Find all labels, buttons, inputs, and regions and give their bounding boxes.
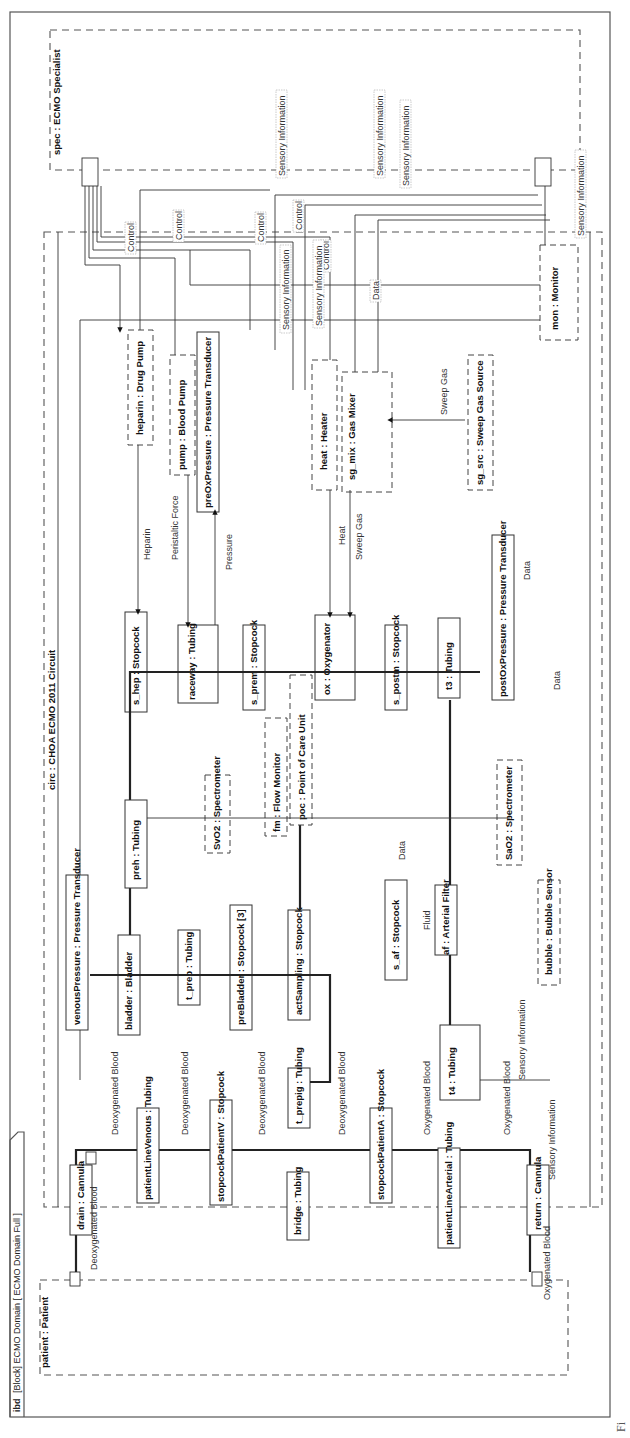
block-s_hep-label: s_hep : Stopcock [130, 626, 141, 705]
flow-label-control: Control [126, 223, 136, 252]
flow-label-sweep: Sweep Gas [439, 368, 449, 415]
flow-label-control: Control [256, 213, 266, 242]
block-patientLineVenous[interactable]: patientLineVenous : Tubing [137, 1076, 159, 1203]
block-actSampling[interactable]: actSampling : Stopcock [288, 907, 310, 1020]
block-poc[interactable]: poc : Point of Care Unit [290, 675, 312, 825]
block-postOxPressure[interactable]: postOxPressure : Pressure Transducer [492, 520, 514, 700]
block-preOxPressure[interactable]: preOxPressure : Pressure Transducer [197, 332, 219, 625]
block-sg_mix[interactable]: sg_mix : Gas Mixer [342, 372, 392, 615]
block-t3-label: t3 : Tubing [443, 642, 454, 690]
block-mon-label: mon : Monitor [549, 266, 560, 330]
block-SvO2[interactable]: SvO2 : Spectrometer [205, 756, 230, 853]
block-heparin-label: heparin : Drug Pump [134, 341, 145, 435]
flow-label-oxy: Oxygenated Blood [422, 1061, 432, 1135]
block-poc-label: poc : Point of Care Unit [296, 714, 307, 820]
block-preh[interactable]: preh : Tubing [125, 800, 147, 888]
block-t_preb[interactable]: t_preb : Tubing [178, 930, 200, 1005]
part-circ-label: circ : CHOA ECMO 2011 Circuit [46, 649, 57, 790]
block-venousPressure-label: venousPressure : Pressure Transducer [71, 848, 82, 1025]
flow-label-sensory: Sensory Information [401, 105, 411, 186]
block-af-label: af : Arterial Filter [440, 879, 451, 955]
block-bladder[interactable]: bladder : Bladder [118, 935, 140, 1035]
block-stopcockPatientV[interactable]: stopcockPatientV : Stopcock [210, 1070, 232, 1205]
block-stopcockPatientA[interactable]: stopcockPatientA : Stopcock [370, 1068, 392, 1203]
flow-label-sensory: Sensory Information [517, 999, 527, 1080]
block-heat-label: heat : Heater [318, 412, 329, 470]
svg-text:ibd [Block] ECMO Domain: ibd [Block] ECMO Domain [ ECMO Domain Fu… [12, 1213, 22, 1412]
block-pump[interactable]: pump : Blood Pump [170, 355, 195, 625]
part-spec-label: spec : ECMO Specialist [51, 49, 62, 155]
block-s_af-label: s_af : Stopcock [390, 899, 401, 970]
block-t4-label: t4 : Tubing [446, 1047, 457, 1095]
block-heat[interactable]: heat : Heater [312, 360, 337, 615]
flow-label-sensory: Sensory Information [314, 245, 324, 326]
block-raceway[interactable]: raceway : Tubing [178, 623, 218, 703]
block-sg_mix-label: sg_mix : Gas Mixer [346, 393, 357, 480]
block-stopcockPatientV-label: stopcockPatientV : Stopcock [215, 1070, 226, 1202]
block-t4[interactable]: t4 : Tubing [440, 1025, 550, 1100]
block-patientLineArterial[interactable]: patientLineArterial : Tubing [438, 1121, 460, 1248]
part-spec[interactable]: spec : ECMO Specialist [50, 30, 580, 186]
block-pump-label: pump : Blood Pump [176, 380, 187, 470]
flow-label-peristaltic: Peristaltic Force [170, 495, 180, 560]
block-SaO2[interactable]: SaO2 : Spectrometer [497, 760, 522, 865]
part-patient[interactable]: patient : Patient [39, 1272, 568, 1375]
flow-label-data: Data [552, 671, 562, 690]
block-s_af[interactable]: s_af : Stopcock [385, 880, 407, 980]
flow-label-deoxy: Deoxygenated Blood [337, 1051, 347, 1135]
frame-tab-kind: ibd [12, 1399, 22, 1413]
block-drain-label: drain : Cannula [75, 1160, 86, 1230]
block-raceway-label: raceway : Tubing [186, 623, 197, 700]
block-bubble-label: bubble : Bubble Sensor [543, 868, 554, 975]
block-SvO2-label: SvO2 : Spectrometer [211, 756, 222, 850]
block-preOxPressure-label: preOxPressure : Pressure Transducer [202, 337, 213, 508]
block-return[interactable]: return : Cannula [527, 1156, 549, 1235]
flow-label-heparin: Heparin [142, 528, 152, 560]
flow-label-data: Data [522, 561, 532, 580]
block-preh-label: preh : Tubing [130, 820, 141, 880]
flow-label-control: Control [174, 211, 184, 240]
block-sg_src-label: sg_src : Sweep Gas Source [474, 360, 485, 485]
block-bridge-label: bridge : Tubing [292, 1166, 303, 1235]
drain-port[interactable] [86, 1152, 96, 1164]
block-SaO2-label: SaO2 : Spectrometer [503, 766, 514, 860]
block-af[interactable]: af : Arterial Filter [435, 700, 457, 1025]
frame-tab-rest: [Block] ECMO Domain [ ECMO Domain Full ] [12, 1213, 22, 1393]
block-s_prem-label: s_prem : Stopcock [248, 619, 259, 705]
flow-label-pressure: Pressure [224, 534, 234, 570]
flow-label-sensory: Sensory Information [375, 95, 385, 176]
block-ox[interactable]: ox : Oxygenator [315, 615, 355, 700]
block-actSampling-label: actSampling : Stopcock [293, 907, 304, 1015]
spec-sensory-port[interactable] [535, 158, 551, 186]
block-bridge[interactable]: bridge : Tubing [287, 1166, 309, 1240]
block-mon[interactable]: mon : Monitor [540, 245, 578, 340]
block-s_prem[interactable]: s_prem : Stopcock [243, 619, 265, 710]
flow-label-sensory: Sensory Information [277, 95, 287, 176]
flow-label-deoxy: Deoxygenated Blood [257, 1051, 267, 1135]
block-t3[interactable]: t3 : Tubing [438, 618, 460, 698]
block-s_hep[interactable]: s_hep : Stopcock [125, 612, 147, 712]
block-preBladder[interactable]: preBladder : Stopcock [3] [230, 905, 252, 1030]
spec-control-port[interactable] [82, 158, 98, 186]
flow-label-oxy: Oxygenated Blood [542, 1226, 552, 1300]
flow-label-sensory: Sensory Information [547, 1099, 557, 1180]
flow-label-control: Control [294, 201, 304, 230]
control-labels: Control Control Control Control Control … [125, 90, 586, 333]
block-venousPressure[interactable]: venousPressure : Pressure Transducer [66, 848, 88, 1030]
flow-label-data: Data [397, 841, 407, 860]
flow-label-fluid: Fluid [422, 910, 432, 930]
flow-label-deoxy: Deoxygenated Blood [89, 1186, 99, 1270]
block-preBladder-label: preBladder : Stopcock [3] [235, 909, 246, 1025]
block-t_preb-label: t_preb : Tubing [183, 931, 194, 1000]
part-patient-label: patient : Patient [39, 1296, 50, 1368]
flow-label-sweep: Sweep Gas [354, 513, 364, 560]
block-bubble[interactable]: bubble : Bubble Sensor [538, 868, 560, 985]
flow-labels: Deoxygenated Blood Deoxygenated Blood De… [89, 368, 562, 1300]
block-heparin[interactable]: heparin : Drug Pump [128, 330, 153, 612]
flow-label-heat: Heat [337, 525, 347, 545]
patient-out-port[interactable] [70, 1272, 80, 1286]
block-t_prepig-label: t_prepig : Tubing [293, 1047, 304, 1124]
block-s_postm[interactable]: s_postm : Stopcock [385, 614, 407, 710]
flow-label-deoxy: Deoxygenated Blood [110, 1051, 120, 1135]
patient-in-port[interactable] [532, 1272, 542, 1286]
